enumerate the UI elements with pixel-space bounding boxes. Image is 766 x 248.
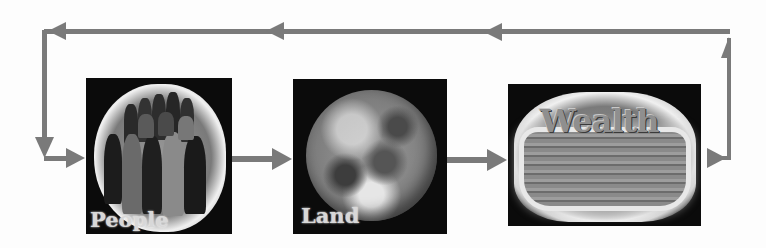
land-label: Land [301,203,359,228]
arrowhead-into-wealth [487,149,507,171]
arrow-land-wealth-line [447,157,491,163]
node-wealth: Wealth [508,84,701,226]
basket-icon [524,132,686,206]
node-land: Land [293,79,447,234]
return-line-top [44,29,730,34]
arrowhead-left-1 [48,22,66,40]
return-line-left [42,30,47,148]
arrowhead-down [35,137,54,158]
wealth-label: Wealth [540,102,659,140]
arrowhead-into-land [272,148,292,170]
earth-globe-icon [306,90,437,221]
arrowhead-left-3 [484,23,502,41]
arrow-people-land-line [232,156,276,162]
arrowhead-left-2 [266,22,284,40]
arrowhead-into-people [66,148,85,168]
node-people: People [86,78,232,234]
people-label: People [90,207,169,232]
